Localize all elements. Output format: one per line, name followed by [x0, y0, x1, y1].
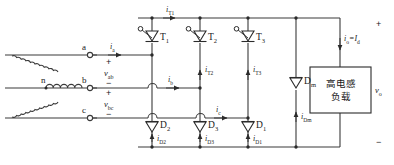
terminal-c-ring [87, 115, 92, 120]
sign-plus-output: + [376, 20, 381, 29]
bridge-leg-2 [186, 16, 206, 148]
device-label-T3-sub: 3 [262, 37, 265, 44]
current-label-id-sub: d [357, 39, 360, 45]
device-label-D1-sub: 1 [263, 125, 266, 132]
neutral-label: n [41, 76, 46, 85]
freewheel-diode-branch [290, 16, 303, 148]
terminal-label-a: a [82, 43, 86, 52]
sign-plus-vbc: + [106, 89, 111, 98]
current-label-ib-sub: b [170, 80, 173, 86]
voltage-label-vo: vo [375, 86, 382, 97]
device-label-D3: D3 [208, 121, 218, 132]
device-label-D1: D1 [256, 121, 266, 132]
sign-minus-vab: − [106, 79, 111, 88]
current-label-iD2-sub: D2 [159, 139, 166, 145]
device-label-D3-sub: 3 [215, 125, 218, 132]
current-label-iT3: iT3 [253, 66, 261, 76]
device-label-D2-sub: 2 [167, 125, 170, 132]
thyristor-T3-symbol [242, 31, 254, 41]
current-label-iT1: iT1 [166, 6, 174, 16]
thyristor-T2-symbol [194, 31, 206, 41]
diode-Dm-symbol [290, 78, 302, 88]
current-label-iDm: iDm [301, 113, 311, 123]
diode-D3-symbol [194, 122, 206, 132]
voltage-label-vo-sub: o [379, 91, 382, 97]
sign-minus-vbc: − [106, 110, 111, 119]
device-label-D1-sym: D [256, 120, 263, 130]
device-label-T2-sub: 2 [214, 37, 217, 44]
diode-D2-symbol [146, 122, 158, 132]
current-label-ib: ib [168, 76, 173, 86]
thyristor-T1-gate-terminal [138, 27, 143, 32]
device-label-T1-sub: 1 [166, 37, 169, 44]
current-label-iT3-sub: T3 [255, 70, 261, 76]
current-label-iD1: iD1 [253, 135, 262, 145]
current-label-iT2-sub: T2 [207, 70, 213, 76]
diode-D1-symbol [242, 122, 254, 132]
neutral-node [45, 87, 48, 90]
load-label-line1: 高电感 [310, 78, 371, 91]
terminal-a-ring [87, 52, 92, 57]
terminal-label-c: c [82, 106, 86, 115]
current-label-iD3: iD3 [205, 135, 214, 145]
load-label-line2: 负载 [310, 91, 371, 104]
current-label-iD3-sub: D3 [207, 139, 214, 145]
device-label-D3-sym: D [208, 120, 215, 130]
current-label-ic-sub: c [218, 110, 220, 116]
device-label-D2-sym: D [160, 120, 167, 130]
phase-leads [93, 55, 248, 118]
current-label-iD1-sub: D1 [255, 139, 262, 145]
current-label-ia-sub: a [112, 47, 114, 53]
load-label: 高电感 负载 [310, 78, 371, 104]
current-label-io: io=Id [344, 35, 360, 45]
bridge-leg-1 [138, 16, 158, 148]
terminal-b-ring [87, 85, 92, 90]
circuit-diagram-canvas: a b c n ia ib ic + vab − + vbc − T1 T2 T… [0, 0, 394, 165]
device-label-T1: T1 [160, 33, 169, 44]
thyristor-T1-symbol [146, 31, 158, 41]
current-label-ia: ia [110, 43, 115, 53]
current-label-iDm-sub: Dm [303, 117, 311, 123]
device-label-D2: D2 [160, 121, 170, 132]
sign-minus-output: − [376, 138, 381, 147]
current-label-ic: ic [216, 106, 221, 116]
terminal-label-b: b [82, 76, 87, 85]
current-label-iD2: iD2 [157, 135, 166, 145]
bridge-leg-3 [234, 16, 254, 148]
device-label-T3: T3 [256, 33, 265, 44]
thyristor-T2-gate-terminal [186, 27, 191, 32]
current-label-iT2: iT2 [205, 66, 213, 76]
current-label-iT1-sub: T1 [168, 10, 174, 16]
device-label-T2: T2 [208, 33, 217, 44]
thyristor-T3-gate-terminal [234, 27, 239, 32]
sign-plus-vab: + [106, 58, 111, 67]
